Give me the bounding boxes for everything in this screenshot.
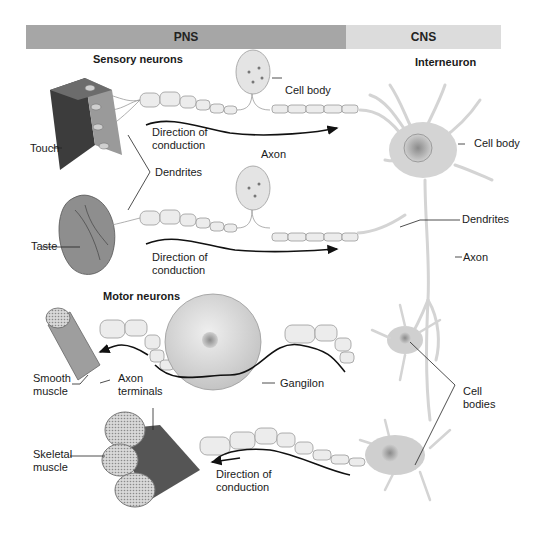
label-dendrites-interneuron: Dendrites: [462, 213, 509, 226]
label-cell-body-interneuron: Cell body: [474, 137, 520, 150]
label-direction-1: Direction ofconduction: [152, 126, 208, 152]
touch-skin-illustration: [50, 78, 122, 170]
label-dendrites-sensory: Dendrites: [155, 166, 202, 179]
label-cell-bodies: Cellbodies: [463, 385, 495, 411]
label-axon-terminals: Axonterminals: [118, 372, 163, 398]
label-cell-body-sensory: Cell body: [285, 84, 331, 97]
label-smooth-muscle: Smoothmuscle: [33, 372, 71, 398]
smooth-muscle-illustration: [46, 308, 100, 380]
label-direction-2: Direction ofconduction: [152, 251, 208, 277]
label-axon-sensory: Axon: [261, 148, 286, 161]
label-axon-interneuron: Axon: [463, 251, 488, 264]
label-direction-3: Direction ofconduction: [216, 468, 272, 494]
sensory-neuron-2: [112, 166, 358, 241]
label-skeletal-muscle: Skeletalmuscle: [33, 448, 72, 474]
label-ganglion: Gangilon: [280, 377, 324, 390]
taste-bud-illustration: [59, 195, 115, 274]
interneuron-heading: Interneuron: [415, 56, 476, 68]
label-touch: Touch: [30, 142, 59, 155]
sensory-neurons-heading: Sensory neurons: [93, 53, 183, 65]
neuron-diagram-art: [0, 0, 541, 533]
motor-neurons-heading: Motor neurons: [103, 290, 180, 302]
skeletal-muscle-illustration: [102, 412, 200, 507]
label-taste: Taste: [31, 240, 57, 253]
